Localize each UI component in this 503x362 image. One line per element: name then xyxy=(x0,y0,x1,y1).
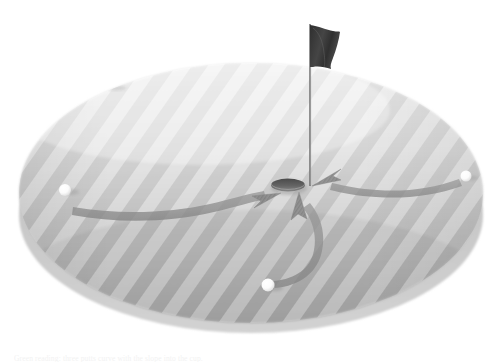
ball-bottom-body xyxy=(262,279,275,292)
ball-left-body xyxy=(59,184,71,196)
illustration-stage: Putting green with three putt lines conv… xyxy=(0,0,503,362)
putting-green-illustration: Putting green with three putt lines conv… xyxy=(0,0,503,362)
mask-left xyxy=(0,0,17,362)
ball-right-body xyxy=(461,171,472,182)
figure-caption: Green reading: three putts curve with th… xyxy=(14,354,203,362)
mask-right xyxy=(486,0,503,362)
